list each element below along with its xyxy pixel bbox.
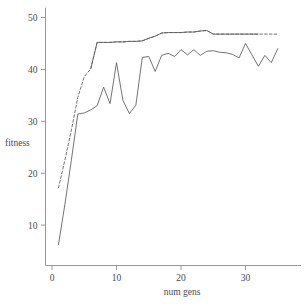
data-series xyxy=(58,30,277,244)
chart-container: 10203040500102030 fitnessnum gens xyxy=(0,0,304,306)
x-axis-title: num gens xyxy=(164,287,201,297)
y-axis-tick-label: 50 xyxy=(28,13,38,23)
axis-labels: fitnessnum gens xyxy=(5,138,201,298)
y-axis-title: fitness xyxy=(5,138,30,148)
y-axis-tick-label: 30 xyxy=(28,117,38,127)
axes xyxy=(46,8,302,266)
x-axis-tick-label: 0 xyxy=(50,273,55,283)
y-axis-tick-label: 20 xyxy=(28,169,38,179)
x-axis-tick-label: 20 xyxy=(176,273,186,283)
x-axis-tick-label: 10 xyxy=(112,273,122,283)
x-axis-tick-label: 30 xyxy=(241,273,251,283)
fitness-line-chart: 10203040500102030 fitnessnum gens xyxy=(0,0,304,306)
y-axis-tick-label: 10 xyxy=(28,221,38,231)
y-axis-tick-label: 40 xyxy=(28,65,38,75)
axis-ticks: 10203040500102030 xyxy=(28,13,251,283)
series-line-average xyxy=(58,43,277,244)
series-line-best-solid-segment xyxy=(91,30,259,68)
